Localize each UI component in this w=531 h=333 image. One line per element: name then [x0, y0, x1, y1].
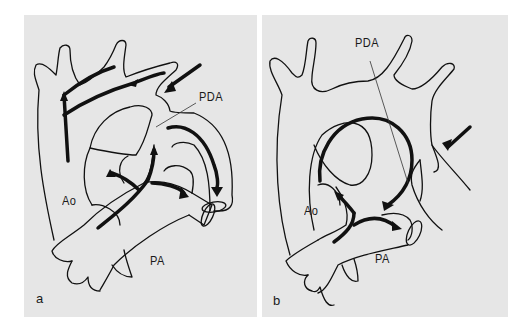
label-pda-b: PDA: [355, 35, 379, 50]
label-ao-a: Ao: [62, 193, 76, 208]
diagram-panel-a: PDA Ao PA a: [24, 15, 257, 317]
label-ao-b: Ao: [304, 203, 318, 218]
heart-vessels-illustration-a: [24, 15, 257, 317]
diagram-panel-b: PDA Ao PA b: [262, 15, 508, 317]
panel-letter-b: b: [273, 293, 280, 308]
panel-letter-a: a: [36, 291, 43, 306]
label-pa-a: PA: [150, 253, 165, 268]
label-pa-b: PA: [375, 251, 390, 266]
heart-vessels-illustration-b: [262, 15, 508, 317]
label-pda-a: PDA: [199, 89, 223, 104]
